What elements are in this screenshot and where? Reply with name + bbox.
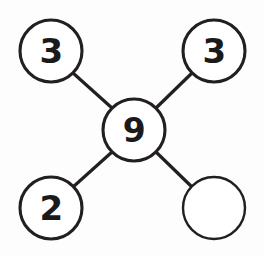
top-left-node-label: 3	[20, 20, 82, 82]
top-right-node-label: 3	[183, 20, 245, 82]
center-node-label: 9	[103, 99, 165, 161]
bottom-right-node-label	[183, 177, 245, 239]
bottom-left-node-label: 2	[20, 177, 82, 239]
puzzle-canvas: 3 3 9 2	[0, 0, 264, 257]
